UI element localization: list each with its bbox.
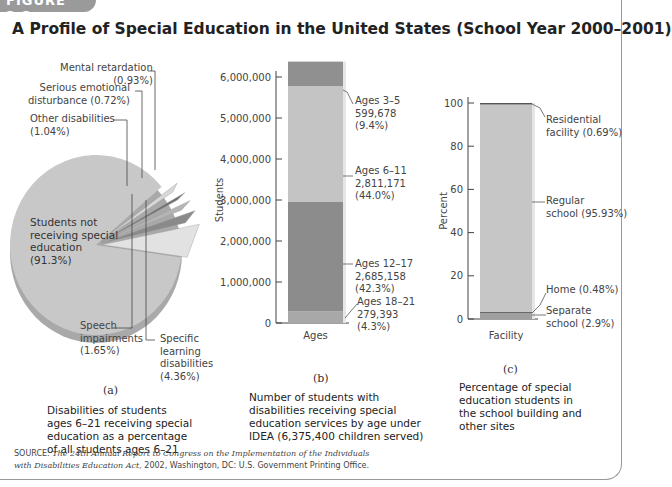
y-tick-label: 60: [450, 184, 463, 195]
segment-label: Regularschool (95.93%): [546, 195, 627, 219]
y-axis-label: Percent: [438, 192, 449, 230]
y-tick-label: 20: [450, 270, 463, 281]
y-tick-label: 100: [444, 98, 463, 109]
caption-line: Percentage of special: [459, 381, 582, 394]
segment-label-line: Regular: [546, 195, 585, 206]
caption-line: other sites: [459, 420, 582, 433]
source-title-1: The 24th Annual Report to Congress on th…: [52, 449, 369, 458]
panel-c-caption: Percentage of special education students…: [459, 381, 582, 433]
bar-segment: [480, 313, 532, 319]
panel-c-tag: (c): [503, 363, 518, 376]
caption-line: the school building and: [459, 407, 582, 420]
bar-segment: [480, 104, 532, 311]
segment-label-line: Residential: [546, 114, 601, 125]
bar-segment: [480, 312, 532, 313]
segment-label: Home (0.48%): [546, 284, 618, 295]
segment-label: Separateschool (2.9%): [546, 305, 615, 329]
segment-label-line: facility (0.69%): [546, 127, 622, 138]
y-tick-label: 40: [450, 227, 463, 238]
x-axis-label: Facility: [489, 330, 524, 341]
segment-label-line: school (2.9%): [546, 318, 615, 329]
segment-label: Residentialfacility (0.69%): [546, 114, 622, 138]
bar-shadow: [532, 103, 535, 319]
caption-line: education students in: [459, 394, 582, 407]
source-prefix: SOURCE:: [14, 449, 52, 458]
segment-label-line: Separate: [546, 305, 591, 316]
y-tick-label: 0: [457, 314, 463, 325]
y-tick-label: 80: [450, 141, 463, 152]
source-title-2: with Disabilities Education Act,: [14, 461, 142, 470]
segment-label-line: Home (0.48%): [546, 284, 618, 295]
segment-label-line: school (95.93%): [546, 208, 627, 219]
source-note: SOURCE: The 24th Annual Report to Congre…: [14, 448, 369, 472]
source-publisher: 2002, Washington, DC: U.S. Government Pr…: [142, 461, 369, 470]
bar-segment: [480, 103, 532, 104]
